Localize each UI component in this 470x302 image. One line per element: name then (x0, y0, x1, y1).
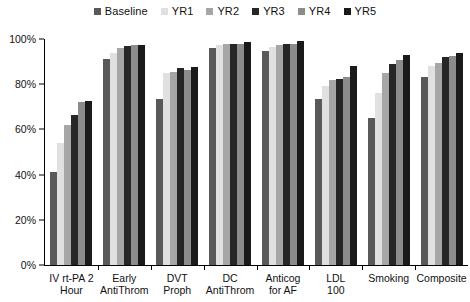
bar[interactable] (403, 55, 410, 265)
bar-group (362, 39, 415, 265)
x-axis-category-label: Composite (415, 272, 468, 284)
bar[interactable] (216, 45, 223, 265)
x-axis-category-label-line: Proph (151, 284, 204, 296)
x-axis-category-label-line: AntiThrom (98, 284, 151, 296)
bar[interactable] (191, 67, 198, 265)
x-axis-category-label-line: Hour (45, 284, 98, 296)
bar[interactable] (297, 41, 304, 265)
legend-item-yr2[interactable]: YR2 (206, 6, 239, 17)
y-axis-tick-label: 20% (15, 215, 36, 226)
bar[interactable] (283, 44, 290, 265)
bar[interactable] (184, 70, 191, 265)
bar[interactable] (442, 57, 449, 265)
x-axis-category-label-line: for AF (257, 284, 310, 296)
bar[interactable] (449, 56, 456, 265)
bar[interactable] (421, 77, 428, 265)
bar[interactable] (350, 66, 357, 265)
x-axis-category-label: LDL100 (309, 272, 362, 296)
bar[interactable] (290, 44, 297, 265)
x-axis-tick-mark (151, 265, 152, 270)
legend-item-yr3[interactable]: YR3 (252, 6, 285, 17)
bar[interactable] (124, 46, 131, 265)
bar[interactable] (456, 53, 463, 265)
bar-group (204, 39, 257, 265)
x-axis-tick-mark (204, 265, 205, 270)
bar[interactable] (315, 99, 322, 265)
bar[interactable] (163, 73, 170, 265)
x-axis-category-label: IV rt-PA 2Hour (45, 272, 98, 296)
x-axis-category-label-line: Anticog (257, 272, 310, 284)
y-axis-labels: 0%20%40%60%80%100% (0, 30, 44, 270)
bar[interactable] (138, 45, 145, 265)
y-axis-tick-label: 80% (15, 79, 36, 90)
legend-item-yr1[interactable]: YR1 (161, 6, 194, 17)
bar[interactable] (244, 42, 251, 265)
legend-swatch-icon (344, 8, 351, 15)
legend-swatch-icon (206, 8, 213, 15)
bar[interactable] (170, 72, 177, 265)
legend-item-label: Baseline (105, 6, 148, 17)
bar[interactable] (396, 60, 403, 265)
bar[interactable] (382, 73, 389, 265)
legend-item-label: YR4 (309, 6, 331, 17)
x-axis-category-label: DCAntiThrom (204, 272, 257, 296)
bar[interactable] (322, 86, 329, 265)
bar[interactable] (50, 172, 57, 265)
bar-group (45, 39, 98, 265)
legend-item-baseline[interactable]: Baseline (94, 6, 148, 17)
x-axis-category-label-line: LDL (309, 272, 362, 284)
bar[interactable] (103, 59, 110, 265)
bar[interactable] (343, 77, 350, 265)
bar[interactable] (131, 45, 138, 265)
plot-area: 0%20%40%60%80%100% (0, 30, 470, 275)
bar[interactable] (329, 80, 336, 265)
bar[interactable] (428, 66, 435, 265)
bar[interactable] (276, 45, 283, 265)
bar-chart: BaselineYR1YR2YR3YR4YR5 0%20%40%60%80%10… (0, 0, 470, 302)
x-axis-category-label: Smoking (362, 272, 415, 284)
x-axis-category-label-line: DC (204, 272, 257, 284)
bar[interactable] (435, 63, 442, 265)
x-axis-tick-mark (257, 265, 258, 270)
y-axis-tick-label: 40% (15, 169, 36, 180)
y-axis-tick-label: 0% (21, 260, 36, 271)
bar[interactable] (71, 115, 78, 265)
bar[interactable] (368, 118, 375, 265)
legend-item-label: YR5 (355, 6, 377, 17)
bar[interactable] (110, 53, 117, 265)
bar[interactable] (230, 44, 237, 265)
x-axis-category-label-line: 100 (309, 284, 362, 296)
bar[interactable] (64, 125, 71, 265)
bar[interactable] (262, 51, 269, 265)
bar[interactable] (223, 44, 230, 265)
bar-group (257, 39, 310, 265)
bar[interactable] (117, 48, 124, 265)
bar[interactable] (177, 68, 184, 265)
bar[interactable] (237, 44, 244, 265)
legend-swatch-icon (94, 8, 101, 15)
chart-legend: BaselineYR1YR2YR3YR4YR5 (0, 6, 470, 17)
bar[interactable] (389, 64, 396, 265)
bar[interactable] (336, 79, 343, 265)
legend-item-yr4[interactable]: YR4 (298, 6, 331, 17)
bar[interactable] (78, 102, 85, 265)
legend-item-label: YR2 (217, 6, 239, 17)
x-axis-category-label-line: Early (98, 272, 151, 284)
x-axis-category-label-line: DVT (151, 272, 204, 284)
x-axis-labels: IV rt-PA 2HourEarlyAntiThromDVTProphDCAn… (45, 272, 468, 302)
x-axis-category-label-line: AntiThrom (204, 284, 257, 296)
bar[interactable] (85, 101, 92, 265)
bar[interactable] (375, 93, 382, 265)
legend-swatch-icon (252, 8, 259, 15)
x-axis-category-label-line: Smoking (362, 272, 415, 284)
bar[interactable] (269, 47, 276, 265)
bar[interactable] (57, 143, 64, 265)
legend-item-yr5[interactable]: YR5 (344, 6, 377, 17)
x-axis-category-label: DVTProph (151, 272, 204, 296)
bar[interactable] (156, 99, 163, 265)
y-axis-tick-label: 60% (15, 124, 36, 135)
x-axis-category-label-line: IV rt-PA 2 (45, 272, 98, 284)
x-axis-tick-mark (415, 265, 416, 270)
bar[interactable] (209, 48, 216, 265)
legend-item-label: YR3 (263, 6, 285, 17)
